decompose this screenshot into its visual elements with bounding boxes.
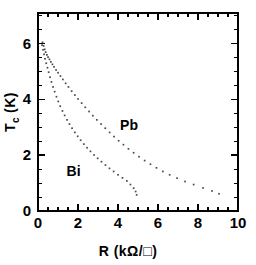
y-tick-label: 6 — [23, 35, 31, 52]
y-tick-label: 0 — [23, 202, 31, 219]
data-point — [44, 58, 46, 60]
data-point — [57, 72, 59, 74]
x-tick-label: 2 — [74, 214, 82, 231]
data-point — [59, 105, 61, 107]
x-tick-label: 0 — [34, 214, 42, 231]
series-annotations: PbBi — [67, 117, 138, 180]
data-point — [74, 94, 76, 96]
data-point — [65, 82, 67, 84]
data-point — [86, 147, 88, 149]
data-point — [150, 163, 152, 165]
data-point — [101, 161, 103, 163]
data-point — [138, 156, 140, 158]
y-axis-tick-labels: 0246 — [23, 35, 32, 219]
data-point — [55, 69, 57, 71]
data-point — [47, 67, 49, 69]
data-point — [60, 75, 62, 77]
data-point — [202, 187, 204, 189]
data-point — [77, 98, 79, 100]
data-point — [128, 148, 130, 150]
data-point — [71, 90, 73, 92]
data-point — [44, 48, 46, 50]
data-point — [193, 184, 195, 186]
data-point — [66, 119, 68, 121]
data-point — [113, 136, 115, 138]
data-point — [49, 76, 51, 78]
y-axis-title: Tc(K) — [2, 92, 21, 132]
x-tick-label: 6 — [154, 214, 162, 231]
data-point — [162, 171, 164, 173]
x-tick-label: 10 — [230, 214, 247, 231]
series-label-pb: Pb — [120, 117, 138, 133]
y-axis-title-main: Tc(K) — [2, 92, 21, 132]
plot-frame — [38, 13, 238, 211]
data-point — [53, 66, 55, 68]
data-point — [144, 160, 146, 162]
data-point — [104, 127, 106, 129]
data-point — [46, 54, 48, 56]
data-point — [42, 41, 44, 43]
data-point — [64, 115, 66, 117]
y-axis-title-subscript: c — [10, 117, 21, 123]
chart-canvas: 0246810 0246 PbBi R (kΩ/□) Tc(K) — [0, 0, 256, 265]
data-point — [49, 58, 51, 60]
y-axis-title-units: (K) — [2, 92, 18, 113]
data-point — [117, 174, 119, 176]
data-point — [62, 79, 64, 81]
data-point — [90, 151, 92, 153]
data-point — [74, 132, 76, 134]
data-point — [52, 86, 54, 88]
data-point — [126, 180, 128, 182]
data-point — [211, 190, 213, 192]
data-point — [122, 177, 124, 179]
data-point — [130, 184, 132, 186]
figure-container: 0246810 0246 PbBi R (kΩ/□) Tc(K) — [0, 0, 256, 265]
data-point — [133, 152, 135, 154]
data-point — [133, 187, 135, 189]
data-point — [218, 193, 220, 195]
data-point — [51, 81, 53, 83]
data-point — [136, 194, 138, 196]
data-point — [184, 181, 186, 183]
data-point — [69, 123, 71, 125]
data-point — [77, 135, 79, 137]
data-point — [81, 102, 83, 104]
data-point — [42, 49, 44, 51]
y-tick-label: 4 — [23, 90, 32, 107]
data-point — [109, 132, 111, 134]
data-point — [43, 53, 45, 55]
data-point — [96, 119, 98, 121]
x-axis-ticks — [38, 13, 238, 211]
data-point — [109, 168, 111, 170]
data-point — [97, 157, 99, 159]
data-point — [54, 91, 56, 93]
data-point — [45, 51, 47, 53]
series-label-bi: Bi — [67, 163, 81, 179]
data-point — [123, 144, 125, 146]
data-point — [84, 106, 86, 108]
data-point — [48, 71, 50, 73]
data-point — [105, 164, 107, 166]
y-axis-ticks — [38, 16, 238, 211]
data-point — [83, 143, 85, 145]
data-point — [93, 154, 95, 156]
data-point — [118, 140, 120, 142]
data-point — [113, 171, 115, 173]
x-tick-label: 4 — [114, 214, 123, 231]
data-point — [88, 111, 90, 113]
data-point — [135, 191, 137, 193]
data-point — [80, 139, 82, 141]
data-point — [71, 127, 73, 129]
y-tick-label: 2 — [23, 146, 31, 163]
data-point — [45, 62, 47, 64]
data-point — [176, 177, 178, 179]
data-point — [92, 115, 94, 117]
data-point — [56, 96, 58, 98]
data-point — [52, 64, 54, 66]
y-axis-title-symbol: T — [2, 123, 18, 132]
data-point — [50, 61, 52, 63]
data-point — [100, 123, 102, 125]
data-point — [169, 174, 171, 176]
x-tick-label: 8 — [194, 214, 202, 231]
data-point — [62, 110, 64, 112]
